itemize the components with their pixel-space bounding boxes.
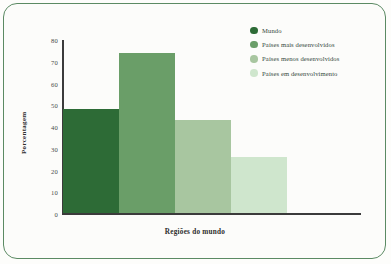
bar xyxy=(119,53,175,213)
legend-swatch-circle-icon xyxy=(250,69,258,77)
y-axis-tick-label: 0 xyxy=(55,211,59,218)
legend-item-label: Países menos desenvolvidos xyxy=(262,55,339,62)
bar xyxy=(63,109,119,213)
legend-swatch-circle-icon xyxy=(250,27,258,35)
legend-item: Países mais desenvolvidos xyxy=(250,40,382,49)
legend-item: Países menos desenvolvidos xyxy=(250,54,382,63)
x-axis-title: Regiões do mundo xyxy=(62,228,328,236)
y-axis-tick-label: 50 xyxy=(51,102,58,109)
y-axis-title: Porcentagem xyxy=(17,88,31,178)
y-axis-tick-label: 80 xyxy=(51,37,58,44)
legend-item: Países em desenvolvimento xyxy=(250,69,382,78)
y-axis-tick-label: 60 xyxy=(51,80,58,87)
legend-item: Mundo xyxy=(250,26,382,35)
y-axis-tick-labels: 01020304050607080 xyxy=(36,40,58,214)
y-axis-tick-label: 30 xyxy=(51,145,58,152)
y-axis-tick-label: 20 xyxy=(51,167,58,174)
legend-item-label: Países mais desenvolvidos xyxy=(262,41,334,48)
y-axis-tick-label: 10 xyxy=(51,189,58,196)
legend-item-label: Países em desenvolvimento xyxy=(262,70,337,77)
chart-legend: MundoPaíses mais desenvolvidosPaíses men… xyxy=(250,26,382,83)
chart-page: Porcentagem 01020304050607080 Regiões do… xyxy=(0,0,391,264)
y-axis-tick-label: 70 xyxy=(51,58,58,65)
legend-swatch-circle-icon xyxy=(250,55,258,63)
legend-item-label: Mundo xyxy=(262,27,282,34)
legend-swatch-circle-icon xyxy=(250,41,258,49)
bar xyxy=(231,157,287,213)
x-axis-line xyxy=(62,213,361,215)
bar xyxy=(175,120,231,213)
y-axis-tick-label: 40 xyxy=(51,124,58,131)
